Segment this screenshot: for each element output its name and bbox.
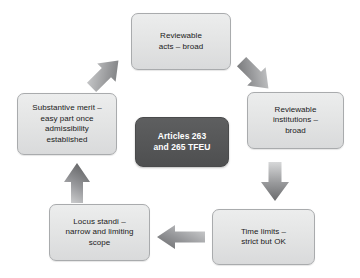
node-label: Time limits – strict but OK	[241, 227, 286, 248]
arrow-left-icon	[155, 223, 207, 251]
node-substantive-merit[interactable]: Substantive merit – easy part once admis…	[17, 93, 117, 155]
node-label: Substantive merit – easy part once admis…	[32, 103, 101, 145]
node-articles-263-265-tfeu[interactable]: Articles 263 and 265 TFEU	[135, 117, 229, 167]
node-label: Reviewable institutions – broad	[273, 105, 318, 137]
arrow-up-right-icon	[83, 52, 127, 96]
diagram-canvas: Reviewable acts – broad Reviewable insti…	[0, 0, 360, 278]
arrow-down-icon	[256, 159, 294, 203]
node-reviewable-acts[interactable]: Reviewable acts – broad	[131, 13, 231, 70]
node-reviewable-institutions[interactable]: Reviewable institutions – broad	[247, 92, 344, 149]
node-time-limits[interactable]: Time limits – strict but OK	[212, 209, 315, 265]
node-locus-standi[interactable]: Locus standi – narrow and limiting scope	[49, 204, 150, 261]
center-node-label: Articles 263 and 265 TFEU	[154, 131, 211, 153]
node-label: Reviewable acts – broad	[159, 31, 204, 52]
node-label: Locus standi – narrow and limiting scope	[65, 217, 133, 249]
arrow-up-icon	[60, 160, 94, 206]
arrow-down-right-icon	[233, 53, 277, 97]
